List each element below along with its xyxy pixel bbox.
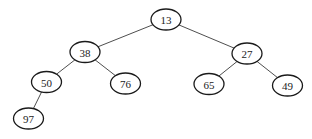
edge-27-49 (257, 61, 278, 77)
tree-node-76: 76 (111, 73, 141, 94)
tree-node-27: 27 (232, 43, 262, 64)
tree-canvas: 1338275076654997 (0, 0, 312, 139)
edge-13-38 (98, 25, 153, 47)
tree-node-13: 13 (151, 9, 181, 30)
nodes-layer: 1338275076654997 (14, 9, 303, 129)
edge-27-65 (219, 61, 237, 76)
node-label: 49 (282, 80, 294, 92)
node-label: 50 (41, 77, 53, 89)
edge-38-76 (95, 60, 115, 76)
node-label: 97 (23, 113, 35, 125)
node-label: 13 (161, 14, 173, 26)
tree-node-65: 65 (194, 74, 224, 95)
edge-38-50 (57, 60, 75, 74)
node-label: 65 (204, 79, 216, 91)
edge-13-27 (179, 25, 234, 48)
node-label: 27 (242, 48, 254, 60)
edges-layer (33, 25, 277, 109)
tree-diagram: 1338275076654997 (0, 0, 312, 139)
node-label: 38 (80, 47, 92, 59)
tree-node-38: 38 (70, 42, 100, 63)
tree-node-50: 50 (32, 72, 62, 93)
edge-50-97 (33, 92, 41, 109)
tree-node-97: 97 (14, 108, 44, 129)
tree-node-49: 49 (273, 75, 303, 96)
node-label: 76 (120, 78, 132, 90)
